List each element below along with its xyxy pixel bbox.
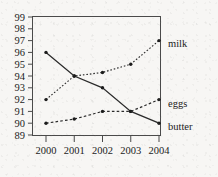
- line-chart-figure: 99 98 97 96 95 94 93 92 91 90 89 2000 20…: [0, 0, 218, 177]
- series-label-milk: milk: [168, 38, 188, 49]
- y-axis-tick-labels: 99 98 97 96 95 94 93 92 91 90 89: [15, 12, 26, 141]
- x-axis-tick-labels: 2000 2001 2002 2003 2004: [36, 145, 171, 156]
- series-milk-line: [46, 41, 159, 100]
- series-butter: [44, 51, 160, 125]
- y-tick-91: 91: [15, 106, 26, 117]
- y-tick-94: 94: [15, 71, 26, 82]
- data-point-milk-2003: [129, 62, 132, 65]
- chart-plot-area: 99 98 97 96 95 94 93 92 91 90 89 2000 20…: [0, 0, 218, 177]
- series-butter-markers: [44, 51, 160, 125]
- y-tick-92: 92: [15, 94, 26, 105]
- series-labels: milk eggs butter: [168, 38, 193, 132]
- x-tick-2003: 2003: [120, 145, 141, 156]
- data-point-eggs-2003: [129, 110, 132, 113]
- data-point-milk-2002: [101, 71, 104, 74]
- data-point-butter-2000: [44, 51, 47, 54]
- data-point-butter-2004: [157, 122, 160, 125]
- data-point-eggs-2000: [44, 122, 47, 125]
- y-tick-89: 89: [15, 130, 26, 141]
- data-point-eggs-2002: [101, 110, 104, 113]
- series-milk: [44, 39, 160, 101]
- y-tick-93: 93: [15, 82, 26, 93]
- y-axis-ticks: [28, 17, 33, 135]
- x-tick-2002: 2002: [92, 145, 113, 156]
- data-point-milk-2000: [44, 98, 47, 101]
- data-point-butter-2002: [101, 86, 104, 89]
- y-tick-96: 96: [15, 47, 26, 58]
- plot-frame: [33, 17, 161, 136]
- data-point-milk-2004: [157, 39, 160, 42]
- x-axis-ticks: [46, 136, 159, 143]
- y-tick-90: 90: [15, 118, 26, 129]
- series-label-eggs: eggs: [168, 98, 187, 109]
- y-tick-95: 95: [15, 59, 26, 70]
- y-tick-98: 98: [15, 23, 26, 34]
- series-milk-markers: [44, 39, 160, 101]
- data-point-eggs-2001: [73, 117, 76, 120]
- y-tick-97: 97: [15, 35, 26, 46]
- y-tick-99: 99: [15, 12, 26, 23]
- data-point-butter-2001: [73, 74, 76, 77]
- x-tick-2000: 2000: [36, 145, 57, 156]
- x-tick-2004: 2004: [149, 145, 171, 156]
- data-point-eggs-2004: [157, 98, 160, 101]
- series-label-butter: butter: [168, 121, 193, 132]
- x-tick-2001: 2001: [64, 145, 85, 156]
- series-eggs: [44, 98, 160, 125]
